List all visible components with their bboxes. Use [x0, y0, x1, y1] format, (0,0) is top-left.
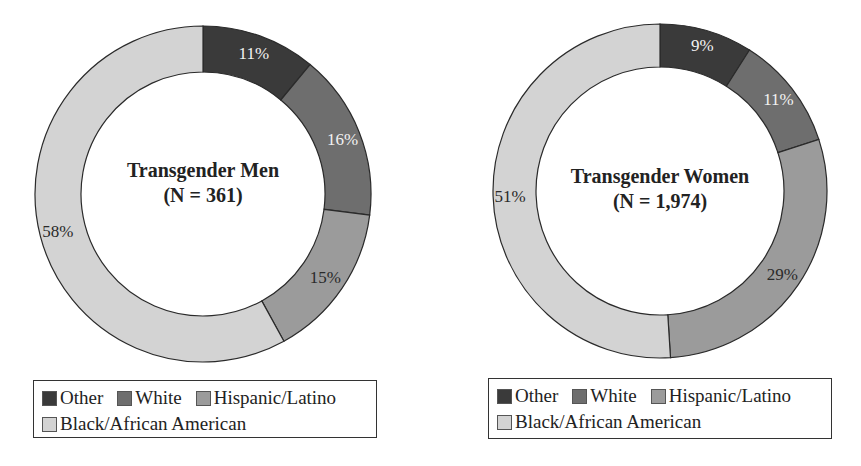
legend-label: White	[135, 385, 181, 411]
slice-value-label: 9%	[691, 36, 714, 55]
legend-transgender-women: Other White Hispanic/Latino Black/Africa…	[488, 378, 832, 439]
donut-title-men: Transgender Men	[127, 159, 279, 182]
legend-swatch-hispanic-latino	[651, 389, 666, 404]
legend-swatch-other	[497, 389, 512, 404]
legend-label: Other	[515, 383, 558, 409]
legend-label: Other	[60, 385, 103, 411]
slice-value-label: 15%	[310, 268, 341, 287]
slice-value-label: 51%	[494, 187, 525, 206]
donut-subtitle-women: (N = 1,974)	[613, 190, 707, 213]
legend-item-black-african-american: Black/African American	[497, 409, 701, 435]
legend-label: Black/African American	[515, 409, 701, 435]
legend-swatch-other	[42, 391, 57, 406]
legend-swatch-black-african-american	[497, 415, 512, 430]
slice-value-label: 58%	[42, 222, 73, 241]
donut-subtitle-men: (N = 361)	[163, 184, 242, 207]
legend-label: Hispanic/Latino	[214, 385, 336, 411]
legend-item-white: White	[117, 385, 181, 411]
legend-item-hispanic-latino: Hispanic/Latino	[651, 383, 791, 409]
slice-value-label: 11%	[763, 90, 794, 109]
slice-value-label: 11%	[239, 44, 270, 63]
legend-label: White	[590, 383, 636, 409]
legend-swatch-white	[117, 391, 132, 406]
legend-item-hispanic-latino: Hispanic/Latino	[196, 385, 336, 411]
legend-label: Hispanic/Latino	[669, 383, 791, 409]
slice-value-label: 29%	[767, 265, 798, 284]
legend-item-white: White	[572, 383, 636, 409]
legend-swatch-black-african-american	[42, 417, 57, 432]
donut-title-women: Transgender Women	[571, 165, 749, 188]
legend-item-other: Other	[42, 385, 103, 411]
legend-swatch-hispanic-latino	[196, 391, 211, 406]
legend-transgender-men: Other White Hispanic/Latino Black/Africa…	[33, 380, 377, 438]
legend-swatch-white	[572, 389, 587, 404]
legend-label: Black/African American	[60, 411, 246, 437]
legend-item-other: Other	[497, 383, 558, 409]
legend-item-black-african-american: Black/African American	[42, 411, 246, 437]
slice-value-label: 16%	[327, 130, 358, 149]
